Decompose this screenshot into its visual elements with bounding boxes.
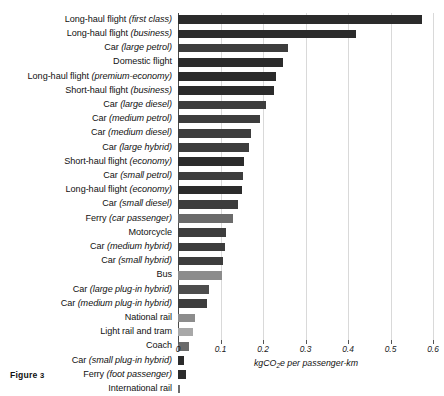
category-label: Car (large diesel) [0,97,172,111]
plot-area [178,13,434,340]
category-label-text: Coach [146,340,172,350]
bar[interactable] [178,15,422,24]
category-label: Long-haul flight (economy) [0,182,172,196]
bar-row [178,297,434,311]
bar-row [178,183,434,197]
bar[interactable] [178,143,249,152]
bar-row [178,112,434,126]
bar[interactable] [178,58,283,67]
x-axis-title-subscript: 2 [276,362,280,369]
bar[interactable] [178,30,356,39]
bar[interactable] [178,243,225,252]
bar[interactable] [178,157,244,166]
category-label-variant: (medium diesel) [108,127,172,137]
category-label: Coach [0,338,172,352]
bar[interactable] [178,72,276,81]
bar[interactable] [178,86,274,95]
category-label-text: Car [92,113,109,123]
x-axis-title: kgCO2e per passenger-km [178,358,434,368]
category-label-text: National rail [125,312,172,322]
category-label-variant: (foot passenger) [107,369,172,379]
bar-row [178,325,434,339]
category-label-text: Long-haul flight [66,184,130,194]
bar[interactable] [178,271,222,280]
bar[interactable] [178,101,266,110]
category-label-variant: (small diesel) [119,198,172,208]
category-label: Light rail and tram [0,324,172,338]
bar[interactable] [178,214,233,223]
category-label-variant: (car passenger) [109,213,172,223]
category-label: Car (small petrol) [0,168,172,182]
bar[interactable] [178,172,243,181]
bar-row [178,311,434,325]
category-label: Car (medium diesel) [0,125,172,139]
bar-row [178,226,434,240]
category-label-text: Short-haul flight [65,85,130,95]
bar-row [178,382,434,396]
bar-row [178,283,434,297]
category-label: Car (medium hybrid) [0,239,172,253]
bar[interactable] [178,370,186,379]
category-label-variant: (large diesel) [120,99,172,109]
category-label-text: Long-haul flight [67,28,131,38]
x-axis-tick-label: 0.5 [385,344,397,354]
category-label-text: International rail [108,383,172,393]
category-label: International rail [0,381,172,395]
category-label-variant: (small hybrid) [118,255,172,265]
bar-row [178,27,434,41]
bar[interactable] [178,186,242,195]
category-label: Bus [0,267,172,281]
bar-row [178,41,434,55]
x-axis-tick-label: 0.1 [215,344,227,354]
category-label-text: Car [61,298,78,308]
bar[interactable] [178,228,226,237]
category-label-text: Car [103,170,120,180]
category-label-variant: (business) [131,28,172,38]
bar-row [178,127,434,141]
bar[interactable] [178,129,251,138]
bar[interactable] [178,44,288,53]
x-axis-title-prefix: kgCO [254,358,277,368]
category-label-text: Car [102,198,119,208]
category-label-variant: (small plug-in hybrid) [89,355,172,365]
category-label-variant: (large petrol) [121,42,172,52]
category-label-text: Bus [156,269,172,279]
bar[interactable] [178,385,180,394]
bar[interactable] [178,314,195,323]
category-label-variant: (large hybrid) [119,142,172,152]
category-label-text: Car [102,142,119,152]
bar-row [178,212,434,226]
category-label-text: Car [104,42,121,52]
category-label-variant: (medium petrol) [109,113,172,123]
bar-row [178,240,434,254]
figure-caption-prefix: Figure [10,370,37,380]
category-label: Car (small diesel) [0,196,172,210]
category-label-variant: (economy) [129,184,172,194]
category-label-variant: (first class) [129,14,172,24]
category-label-variant: (medium hybrid) [107,241,172,251]
bar[interactable] [178,285,209,294]
category-label-variant: (large plug-in hybrid) [90,284,172,294]
bar-row [178,84,434,98]
bar[interactable] [178,257,223,266]
bar-row [178,169,434,183]
bar[interactable] [178,115,260,124]
category-label-text: Car [72,355,89,365]
x-axis-tick-label: 0.6 [427,344,439,354]
category-label: Car (large petrol) [0,40,172,54]
category-label-text: Motorcycle [129,227,172,237]
x-axis-tick-label: 0.4 [342,344,354,354]
category-label: Short-haul flight (business) [0,83,172,97]
bar[interactable] [178,328,193,337]
category-label-variant: (economy) [129,156,172,166]
figure-container: Long-haul flight (first class)Long-haul … [0,0,444,396]
bar-row [178,56,434,70]
bar[interactable] [178,200,238,209]
category-label-variant: (premium-economy) [91,71,172,81]
bar[interactable] [178,299,207,308]
category-label-text: Car [90,241,107,251]
category-label-text: Car [73,284,90,294]
x-axis-tick-label: 0 [176,344,181,354]
category-label-text: Ferry [86,213,109,223]
category-label: Long-haul flight (premium-economy) [0,69,172,83]
